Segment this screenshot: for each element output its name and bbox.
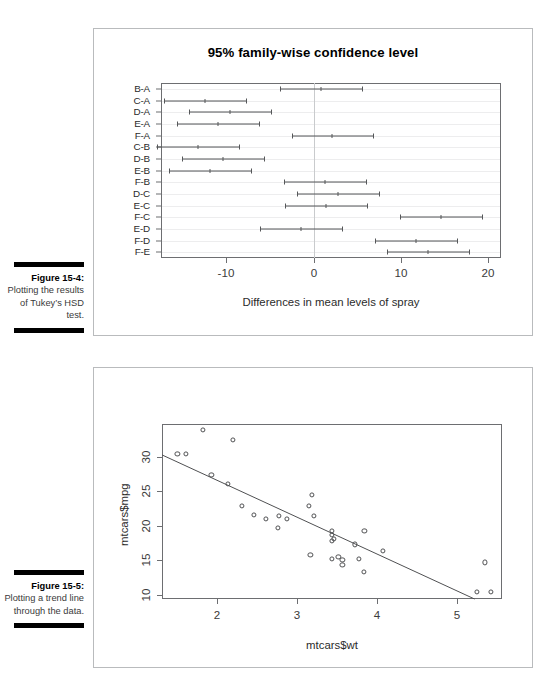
figure-caption-15-5: Figure 15-5: Plotting a trend line throu… [0, 570, 84, 628]
confidence-interval-cap [482, 215, 483, 220]
caption-rule-bottom [14, 328, 84, 333]
caption-rule-top [14, 262, 84, 267]
confidence-interval-cap [182, 156, 183, 161]
x-axis-tick-label: 3 [294, 608, 300, 621]
mean-difference-marker [205, 99, 206, 103]
category-label-f-a: F-A [135, 131, 150, 141]
scatter-trendline-chart: 23451015202530 mtcars$wt mtcars$mpg [93, 367, 533, 668]
confidence-interval-cap [280, 86, 281, 91]
y-axis-tick [156, 240, 161, 241]
confidence-interval-cap [375, 238, 376, 243]
confidence-interval-cap [297, 191, 298, 196]
chart-title-tukey: 95% family-wise confidence level [94, 45, 532, 60]
category-label-d-c: D-C [133, 189, 150, 199]
category-label-e-c: E-C [134, 201, 150, 211]
caption-text: Plotting the results of Tukey’s HSD test… [0, 284, 84, 321]
confidence-interval-cap [457, 238, 458, 243]
x-axis-tick-label: 5 [454, 608, 460, 621]
confidence-interval-cap [379, 191, 380, 196]
zero-reference-line [314, 83, 315, 258]
y-axis-tick [156, 228, 161, 229]
y-axis-tick [157, 457, 162, 458]
y-axis-tick [157, 560, 162, 561]
category-label-e-b: E-B [134, 166, 150, 176]
caption-title: Figure 15-4: [0, 272, 84, 284]
category-label-f-d: F-D [134, 236, 150, 246]
category-label-b-a: B-A [134, 84, 150, 94]
x-axis-tick-label: -10 [218, 266, 235, 279]
mean-difference-marker [428, 250, 429, 254]
ci-gridline [162, 206, 500, 207]
y-axis-tick [156, 112, 161, 113]
x-axis-tick [226, 258, 227, 263]
x-axis-tick-label: 20 [482, 266, 495, 279]
y-axis-tick [156, 123, 161, 124]
confidence-interval-cap [362, 86, 363, 91]
category-label-e-d: E-D [134, 224, 150, 234]
mean-difference-marker [325, 180, 326, 184]
mean-difference-marker [222, 157, 223, 161]
confidence-interval-cap [239, 145, 240, 150]
confidence-interval-cap [260, 226, 261, 231]
mean-difference-marker [325, 204, 326, 208]
y-axis-tick [156, 135, 161, 136]
x-axis-tick [297, 599, 298, 604]
x-axis-tick [377, 599, 378, 604]
mean-difference-marker [230, 110, 231, 114]
confidence-interval-cap [246, 98, 247, 103]
y-axis-tick [157, 595, 162, 596]
y-axis-tick [156, 88, 161, 89]
y-axis-tick [156, 170, 161, 171]
confidence-interval-cap [373, 133, 374, 138]
ci-gridline [162, 171, 500, 172]
category-label-f-e: F-E [135, 247, 150, 257]
y-axis-tick [156, 182, 161, 183]
mean-difference-marker [217, 122, 218, 126]
x-axis-tick-label: 0 [311, 266, 317, 279]
category-label-d-b: D-B [134, 154, 150, 164]
caption-rule-top [14, 570, 84, 575]
y-axis-title-scatter: mtcars$mpg [118, 483, 130, 546]
mean-difference-marker [301, 227, 302, 231]
y-axis-tick [156, 217, 161, 218]
x-axis-tick [217, 599, 218, 604]
category-label-c-b: C-B [134, 142, 150, 152]
x-axis-tick [401, 258, 402, 263]
confidence-interval-cap [271, 110, 272, 115]
category-label-c-a: C-A [134, 96, 150, 106]
confidence-interval-cap [366, 180, 367, 185]
confidence-interval-cap [469, 250, 470, 255]
confidence-interval-cap [342, 226, 343, 231]
ci-gridline [162, 241, 500, 242]
mean-difference-marker [440, 215, 441, 219]
mean-difference-marker [332, 134, 333, 138]
y-axis-tick-label: 25 [139, 485, 152, 498]
confidence-interval-cap [164, 98, 165, 103]
x-axis-tick-label: 10 [395, 266, 408, 279]
confidence-interval-cap [292, 133, 293, 138]
x-axis-tick-label: 4 [374, 608, 380, 621]
category-label-d-a: D-A [134, 107, 150, 117]
category-label-f-c: F-C [134, 212, 150, 222]
category-label-e-a: E-A [134, 119, 150, 129]
mean-difference-marker [416, 239, 417, 243]
confidence-interval-cap [387, 250, 388, 255]
y-axis-tick-label: 20 [139, 520, 152, 533]
y-axis-tick-label: 30 [139, 451, 152, 464]
confidence-interval-cap [264, 156, 265, 161]
x-axis-title-scatter: mtcars$wt [162, 639, 502, 651]
y-axis-tick [156, 205, 161, 206]
confidence-interval-cap [367, 203, 368, 208]
x-axis-title-tukey: Differences in mean levels of spray [161, 296, 501, 308]
y-axis-tick [156, 252, 161, 253]
confidence-interval-cap [259, 121, 260, 126]
y-axis-tick [157, 491, 162, 492]
confidence-interval-cap [189, 110, 190, 115]
y-axis-tick-label: 15 [139, 554, 152, 567]
confidence-interval-cap [157, 145, 158, 150]
caption-text: Plotting a trend line through the data. [0, 592, 84, 617]
y-axis-tick [157, 526, 162, 527]
y-axis-tick [156, 158, 161, 159]
confidence-interval-cap [284, 180, 285, 185]
mean-difference-marker [198, 145, 199, 149]
